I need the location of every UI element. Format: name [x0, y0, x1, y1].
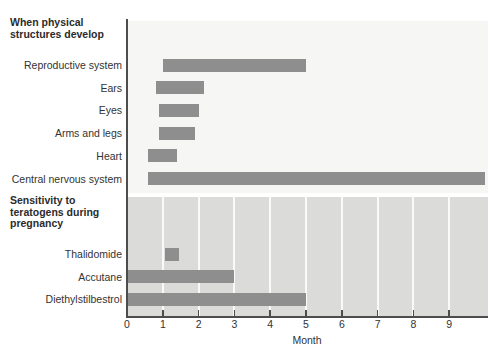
row-label-central-nervous-system: Central nervous system [12, 172, 122, 186]
row-label-heart: Heart [96, 149, 122, 163]
heading-line: pregnancy [10, 218, 128, 230]
tick-label-month-3: 3 [222, 318, 246, 330]
tick-label-month-4: 4 [258, 318, 282, 330]
prenatal-development-chart: When physical structures develop Sensiti… [0, 0, 488, 358]
heading-line: structures develop [10, 29, 128, 41]
bar-arms-and-legs [159, 127, 195, 140]
row-label-ears: Ears [100, 81, 122, 95]
tick-month-8 [413, 310, 415, 316]
heading-line: Sensitivity to [10, 195, 128, 207]
y-axis-line [126, 19, 128, 317]
gridline-month-7 [377, 197, 379, 316]
tick-month-1 [162, 310, 164, 316]
tick-label-month-0: 0 [115, 318, 139, 330]
row-label-thalidomide: Thalidomide [65, 247, 122, 261]
tick-label-month-8: 8 [401, 318, 425, 330]
row-label-eyes: Eyes [99, 103, 122, 117]
row-label-arms-and-legs: Arms and legs [55, 126, 122, 140]
group-heading-structures: When physical structures develop [10, 17, 128, 40]
gridline-month-6 [341, 197, 343, 316]
row-label-accutane: Accutane [78, 270, 122, 284]
tick-label-month-1: 1 [151, 318, 175, 330]
tick-month-2 [198, 310, 200, 316]
bar-heart [148, 149, 177, 162]
tick-label-month-2: 2 [187, 318, 211, 330]
gridline-month-9 [448, 197, 450, 316]
bar-eyes [159, 104, 198, 117]
heading-line: When physical [10, 17, 128, 29]
gridline-month-8 [412, 197, 414, 316]
tick-month-6 [341, 310, 343, 316]
group-heading-teratogens: Sensitivity to teratogens during pregnan… [10, 195, 128, 230]
row-label-diethylstilbestrol: Diethylstilbestrol [46, 292, 122, 306]
bar-reproductive-system [163, 59, 306, 72]
bar-ears [156, 81, 204, 94]
tick-label-month-6: 6 [330, 318, 354, 330]
tick-month-5 [305, 310, 307, 316]
bar-central-nervous-system [148, 172, 485, 185]
tick-month-0 [126, 310, 128, 316]
tick-label-month-9: 9 [437, 318, 461, 330]
tick-month-3 [234, 310, 236, 316]
x-axis-title: Month [257, 334, 357, 346]
bar-diethylstilbestrol [127, 293, 306, 306]
tick-month-7 [377, 310, 379, 316]
row-label-reproductive-system: Reproductive system [24, 58, 122, 72]
tick-month-9 [448, 310, 450, 316]
bar-accutane [127, 270, 234, 283]
bar-thalidomide [165, 248, 179, 261]
tick-label-month-7: 7 [366, 318, 390, 330]
tick-label-month-5: 5 [294, 318, 318, 330]
tick-month-4 [269, 310, 271, 316]
